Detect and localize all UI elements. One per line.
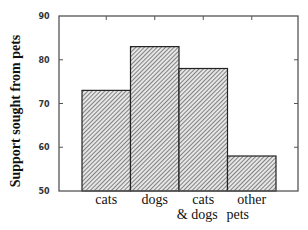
y-tick-label: 60 xyxy=(38,143,50,152)
bars-group xyxy=(82,47,276,191)
y-axis-title: Support sought from pets xyxy=(8,34,23,187)
bar-cats xyxy=(82,90,131,191)
bar-chart: 5060708090 catsdogscats& dogsotherpets S… xyxy=(0,0,308,230)
bar-other-pets xyxy=(228,156,277,191)
y-tick-label: 50 xyxy=(38,187,50,196)
x-category-label: pets xyxy=(226,207,249,222)
y-tick-label: 90 xyxy=(38,12,50,21)
x-category-labels: catsdogscats& dogsotherpets xyxy=(95,192,266,222)
y-tick-label: 70 xyxy=(38,100,50,109)
bar-dogs xyxy=(131,47,180,191)
x-category-label: & dogs xyxy=(177,207,218,222)
bar-cats-dogs xyxy=(179,69,228,192)
x-category-label: other xyxy=(237,192,266,207)
x-category-label: cats xyxy=(95,192,117,207)
y-tick-label: 80 xyxy=(38,56,50,65)
x-category-label: dogs xyxy=(142,192,168,207)
x-category-label: cats xyxy=(192,192,214,207)
